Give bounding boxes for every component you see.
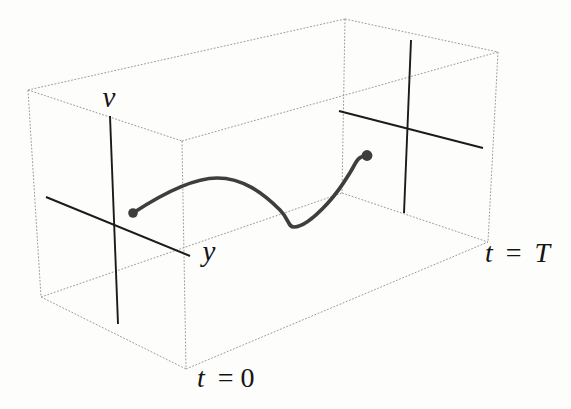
t-zero-value: = 0: [218, 362, 255, 393]
trajectory-end-dot: [362, 150, 373, 161]
t-T-equals-sign: =: [506, 237, 522, 268]
t-T-value: T: [535, 237, 553, 268]
figure-background: [0, 0, 571, 409]
trajectory-start-dot: [128, 208, 138, 218]
phase-space-figure: v y t = 0 t = T: [0, 0, 571, 409]
v-axis-label: v: [103, 81, 116, 113]
t-equals-T-label: t = T: [485, 237, 553, 268]
t-zero-variable: t: [197, 362, 206, 393]
t-equals-zero-label: t = 0: [197, 362, 255, 393]
y-axis-label: y: [200, 235, 216, 267]
t-T-variable: t: [485, 237, 494, 268]
figure-svg: v y t = 0 t = T: [0, 0, 571, 409]
